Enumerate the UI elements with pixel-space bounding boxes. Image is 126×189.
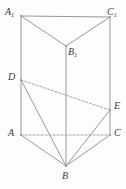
vertex-label-C1: C1 xyxy=(107,7,117,17)
vertex-dot-C xyxy=(109,134,111,136)
vertex-label-A: A xyxy=(8,128,14,138)
vertex-label-subscript-B1: 1 xyxy=(74,51,77,58)
vertex-label-subscript-A1: 1 xyxy=(11,11,14,18)
vertex-label-D: D xyxy=(8,72,15,82)
vertex-label-A1: A1 xyxy=(5,7,14,17)
edge-A-B xyxy=(21,135,66,166)
vertex-dot-B1 xyxy=(65,45,67,47)
edge-A1-C1 xyxy=(21,16,110,17)
vertex-label-B1: B1 xyxy=(68,47,77,57)
segment-E-B xyxy=(66,110,110,166)
vertex-dot-A1 xyxy=(20,15,22,17)
vertex-dot-A xyxy=(20,134,22,136)
vertex-label-C: C xyxy=(114,128,121,138)
vertex-label-E: E xyxy=(114,101,120,111)
geometry-canvas xyxy=(0,0,126,189)
vertex-label-B: B xyxy=(62,171,68,181)
geometry-figure: A1C1B1DEACB xyxy=(0,0,126,189)
vertex-label-subscript-C1: 1 xyxy=(114,11,117,18)
vertex-dot-B xyxy=(65,165,67,167)
edge-A1-B1 xyxy=(21,16,66,46)
edge-C-B xyxy=(66,135,110,166)
vertex-dot-D xyxy=(20,79,22,81)
edge-C1-B1 xyxy=(66,17,110,46)
vertex-dot-E xyxy=(109,109,111,111)
solid-edge-group xyxy=(21,16,110,166)
